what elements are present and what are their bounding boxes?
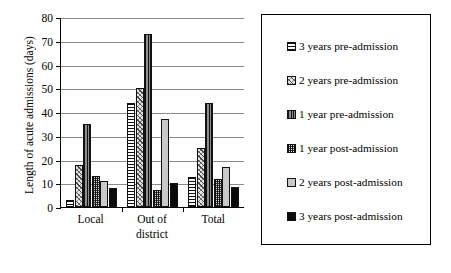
legend-swatch-icon bbox=[287, 178, 296, 187]
legend-label: 2 years pre-admission bbox=[299, 74, 398, 86]
legend-swatch-icon bbox=[287, 212, 296, 221]
bar bbox=[83, 124, 91, 207]
bar-group bbox=[61, 18, 122, 207]
y-tick-label: 40 bbox=[42, 107, 54, 119]
bar bbox=[197, 148, 205, 207]
x-axis-label: Total bbox=[183, 212, 244, 242]
bar bbox=[205, 103, 213, 208]
y-tick-label: 70 bbox=[42, 36, 54, 48]
bar bbox=[231, 187, 239, 207]
legend-item[interactable]: 2 years pre-admission bbox=[262, 63, 430, 97]
x-axis-label: Out ofdistrict bbox=[121, 212, 182, 242]
bar bbox=[92, 176, 100, 207]
x-axis-label: Local bbox=[60, 212, 121, 242]
bar bbox=[153, 190, 161, 207]
legend-box: 3 years pre-admission2 years pre-admissi… bbox=[261, 14, 431, 245]
legend-item[interactable]: 3 years pre-admission bbox=[262, 29, 430, 63]
bar bbox=[222, 167, 230, 207]
legend-item[interactable]: 3 years post-admission bbox=[262, 199, 430, 233]
bar bbox=[100, 181, 108, 207]
bar bbox=[127, 103, 135, 208]
y-tick-label: 20 bbox=[42, 155, 54, 167]
x-axis-label-line: Local bbox=[60, 212, 121, 227]
bar-group bbox=[122, 18, 183, 207]
x-axis-labels: LocalOut ofdistrictTotal bbox=[60, 212, 244, 242]
bar bbox=[161, 119, 169, 207]
legend-item[interactable]: 1 year post-admission bbox=[262, 131, 430, 165]
y-tick-label: 10 bbox=[42, 178, 54, 190]
legend-label: 1 year pre-admission bbox=[299, 108, 394, 120]
bar bbox=[188, 177, 196, 207]
x-axis-label-line: Total bbox=[183, 212, 244, 227]
bar-groups bbox=[61, 18, 244, 207]
legend-item[interactable]: 2 years post-admission bbox=[262, 165, 430, 199]
bar bbox=[75, 165, 83, 207]
legend-label: 2 years post-admission bbox=[299, 176, 403, 188]
legend-label: 1 year post-admission bbox=[299, 142, 398, 154]
legend-label: 3 years post-admission bbox=[299, 210, 403, 222]
y-tick-label: 50 bbox=[42, 83, 54, 95]
y-tick-label: 80 bbox=[42, 12, 54, 24]
y-tick-label: 30 bbox=[42, 131, 54, 143]
plot-area: 01020304050607080 bbox=[60, 18, 244, 208]
y-axis-title: Length of acute admissions (days) bbox=[21, 8, 37, 223]
bar-chart: Length of acute admissions (days) 010203… bbox=[0, 0, 252, 273]
legend-swatch-icon bbox=[287, 42, 296, 51]
x-axis-label-line: Out of bbox=[121, 212, 182, 227]
y-tick-mark bbox=[56, 208, 61, 209]
y-tick-label: 60 bbox=[42, 60, 54, 72]
legend-swatch-icon bbox=[287, 144, 296, 153]
bar bbox=[66, 200, 74, 207]
legend-swatch-icon bbox=[287, 110, 296, 119]
bar bbox=[144, 34, 152, 207]
bar bbox=[214, 179, 222, 208]
bar bbox=[136, 88, 144, 207]
legend-swatch-icon bbox=[287, 76, 296, 85]
bar bbox=[109, 188, 117, 207]
bar bbox=[170, 183, 178, 207]
bar-group bbox=[183, 18, 244, 207]
legend-label: 3 years pre-admission bbox=[299, 40, 398, 52]
legend-item[interactable]: 1 year pre-admission bbox=[262, 97, 430, 131]
x-axis-label-line: district bbox=[121, 227, 182, 242]
chart-screenshot: Length of acute admissions (days) 010203… bbox=[0, 0, 451, 273]
y-tick-label: 0 bbox=[47, 202, 53, 214]
